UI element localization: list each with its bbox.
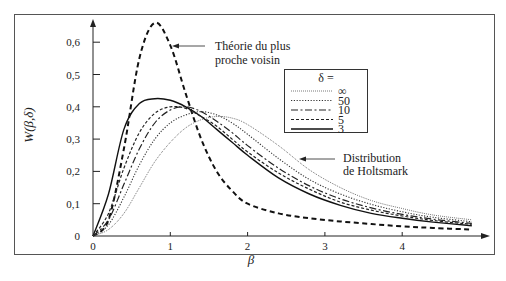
x-ticks: 01234 [90, 232, 405, 252]
svg-text:δ =: δ = [318, 71, 334, 85]
y-tick-label: 0 [75, 230, 81, 242]
y-tick-label: 0,2 [66, 165, 80, 177]
svg-text:Distribution: Distribution [343, 151, 401, 165]
series-line [93, 112, 472, 236]
x-tick-label: 0 [90, 240, 96, 252]
x-tick-label: 4 [399, 240, 405, 252]
svg-text:Théorie du plus: Théorie du plus [215, 39, 291, 53]
annotation-arrow-icon [172, 44, 179, 49]
series-line [93, 116, 472, 236]
annotation-nearest-neighbor: Théorie du plus proche voisin [172, 39, 291, 67]
y-tick-label: 0,6 [66, 36, 80, 48]
svg-text:proche voisin: proche voisin [215, 53, 280, 67]
y-axis-title: W(β,δ) [21, 107, 36, 142]
series-line [93, 99, 472, 236]
x-tick-label: 2 [245, 240, 251, 252]
svg-text:de Holtsmark: de Holtsmark [343, 164, 408, 178]
y-tick-label: 0,5 [66, 69, 80, 81]
y-ticks: 00,10,20,30,40,50,6 [66, 36, 100, 242]
x-axis [93, 233, 490, 239]
x-axis-title: β [247, 252, 255, 267]
series-line [93, 107, 472, 236]
y-tick-label: 0,1 [66, 198, 80, 210]
y-tick-label: 0,3 [66, 133, 80, 145]
annotation-arrow-icon [299, 157, 306, 162]
annotation-holtsmark: Distribution de Holtsmark [299, 151, 408, 178]
series-lines [93, 23, 472, 236]
x-tick-label: 3 [322, 240, 328, 252]
y-tick-label: 0,4 [66, 101, 80, 113]
x-axis-arrow-icon [481, 233, 490, 239]
x-tick-label: 1 [168, 240, 174, 252]
y-axis-arrow-icon [90, 19, 96, 27]
chart: 00,10,20,30,40,50,6 01234 β W(β,δ) Théor… [0, 0, 506, 281]
legend: δ = ∞501053 [285, 70, 368, 137]
legend-label: 3 [338, 122, 344, 136]
